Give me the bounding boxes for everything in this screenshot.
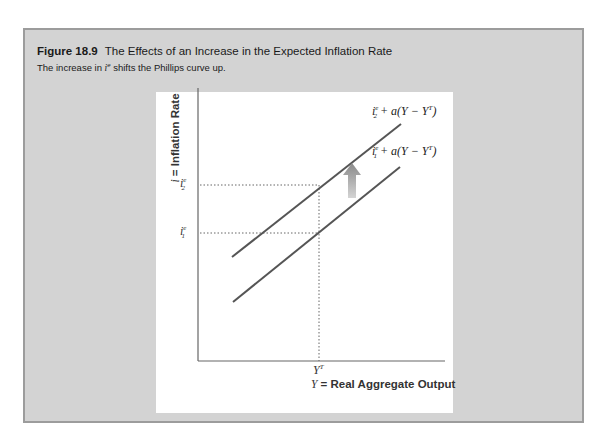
curve-upper-close: ) (432, 104, 436, 118)
x-tick-yt: YT (313, 363, 324, 378)
x-tick-sup: T (320, 363, 324, 371)
phillips-curve-chart (0, 0, 603, 446)
curve-label-lower: ie1 + a(Y − YT) (372, 144, 436, 160)
curve-lower-rest: + a(Y − Y (377, 144, 429, 158)
y-tick-lower-sub: 1 (181, 232, 185, 240)
y-tick-lower-sup: e (183, 224, 186, 232)
x-axis-label: Y = Real Aggregate Output (311, 378, 455, 390)
curve-upper-rest: + a(Y − Y (377, 104, 429, 118)
y-axis-text: = Inflation Rate (169, 93, 181, 179)
x-axis-text: = Real Aggregate Output (317, 378, 455, 390)
y-tick-upper-sup: e (183, 176, 186, 184)
curve-lower-close: ) (432, 144, 436, 158)
y-axis-label: i = Inflation Rate (169, 93, 181, 182)
phillips-curve-lower (233, 167, 400, 302)
y-tick-i1e: ie1 (180, 224, 185, 240)
curve-label-upper: ie2 + a(Y − YT) (372, 104, 436, 120)
y-tick-i2e: ie2 (180, 176, 185, 192)
x-tick-base: Y (313, 363, 320, 377)
y-tick-upper-sub: 2 (181, 184, 185, 192)
